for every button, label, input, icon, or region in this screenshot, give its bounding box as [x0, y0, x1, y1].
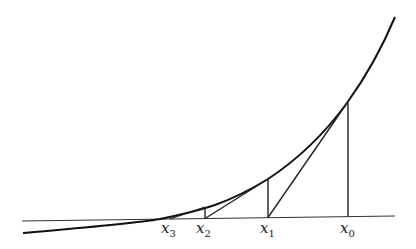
tangent-at-x0 [268, 103, 347, 218]
label-x0: x0 [340, 221, 355, 239]
tangent-at-x1 [205, 179, 268, 219]
function-curve [23, 17, 395, 233]
label-x2: x2 [196, 221, 211, 239]
newton-method-diagram: x3 x2 x1 x0 [0, 0, 416, 249]
tangent-at-x2 [170, 207, 205, 219]
label-x1: x1 [260, 221, 275, 239]
label-x3: x3 [161, 221, 176, 239]
diagram-svg [0, 0, 416, 249]
